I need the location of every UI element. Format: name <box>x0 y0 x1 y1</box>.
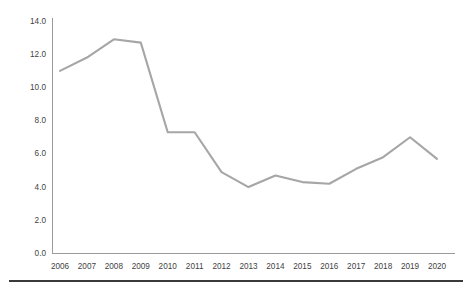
x-tick-label: 2018 <box>374 262 393 271</box>
y-tick-label: 8.0 <box>35 116 47 125</box>
footer-rule <box>9 280 463 282</box>
x-tick-label: 2015 <box>293 262 312 271</box>
y-tick-label: 10.0 <box>30 83 46 92</box>
x-tick-label: 2013 <box>239 262 258 271</box>
x-axis-tick-labels: 2006200720082009201020112012201320142015… <box>51 262 447 271</box>
y-tick-label: 4.0 <box>35 183 47 192</box>
x-tick-label: 2020 <box>428 262 447 271</box>
x-tick-label: 2007 <box>78 262 97 271</box>
line-chart: 14.0 12.0 10.0 8.0 6.0 4.0 2.0 0.0 20062… <box>0 0 472 288</box>
y-axis-tick-labels: 14.0 12.0 10.0 8.0 6.0 4.0 2.0 0.0 <box>30 17 46 258</box>
y-tick-label: 6.0 <box>35 149 47 158</box>
y-tick-label: 2.0 <box>35 216 47 225</box>
x-tick-label: 2010 <box>159 262 178 271</box>
y-tick-label: 14.0 <box>30 17 46 26</box>
x-tick-label: 2014 <box>266 262 285 271</box>
x-tick-label: 2016 <box>320 262 339 271</box>
x-tick-label: 2011 <box>186 262 204 271</box>
chart-figure: 14.0 12.0 10.0 8.0 6.0 4.0 2.0 0.0 20062… <box>0 0 472 288</box>
y-tick-label: 12.0 <box>30 50 46 59</box>
x-tick-label: 2012 <box>212 262 231 271</box>
x-tick-label: 2017 <box>347 262 366 271</box>
y-tick-label: 0.0 <box>35 249 47 258</box>
data-series-line <box>60 39 437 187</box>
x-tick-label: 2009 <box>132 262 151 271</box>
x-tick-label: 2008 <box>105 262 124 271</box>
x-tick-label: 2006 <box>51 262 70 271</box>
x-tick-label: 2019 <box>401 262 420 271</box>
